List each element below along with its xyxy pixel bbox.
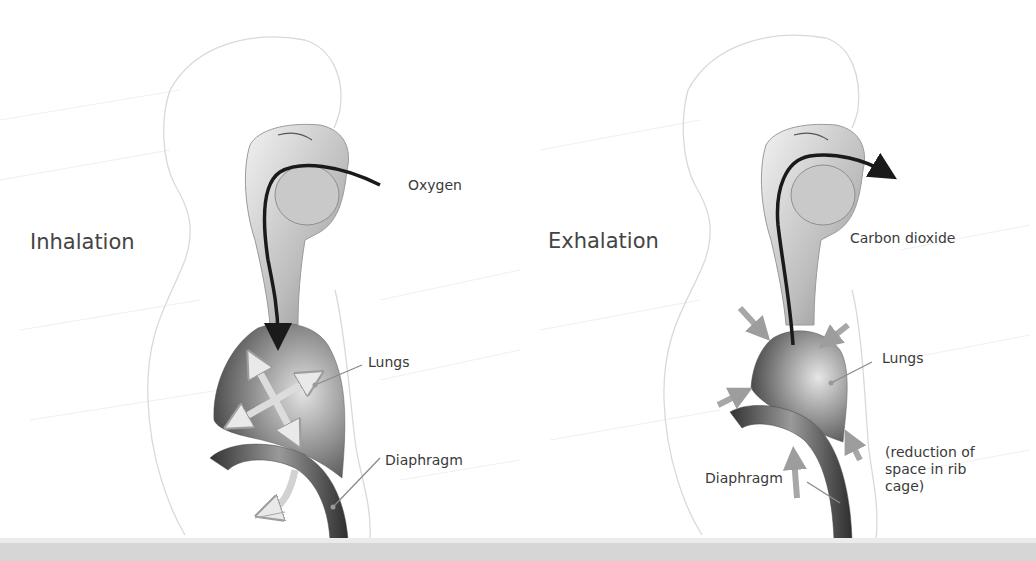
diagram-canvas [0, 0, 1036, 561]
oxygen-label: Oxygen [408, 177, 462, 193]
bottom-band [0, 543, 1036, 561]
airway-section [245, 124, 348, 325]
inhalation-diaphragm-label: Diaphragm [385, 452, 463, 468]
background-hatching [0, 90, 1030, 480]
carbon-dioxide-label: Carbon dioxide [850, 230, 955, 246]
exhalation-title: Exhalation [548, 229, 659, 253]
diaphragm-motion-arrow [268, 470, 295, 512]
exhalation-figure [664, 35, 885, 540]
inhalation-figure [148, 37, 380, 540]
respiration-diagram: Inhalation Oxygen Lungs Diaphragm Exhala… [0, 0, 1036, 561]
rib-cage-note: (reduction of space in rib cage) [885, 444, 975, 495]
exhalation-lungs-label: Lungs [882, 350, 923, 366]
exhalation-diaphragm-label: Diaphragm [705, 470, 783, 486]
inhalation-title: Inhalation [30, 230, 135, 254]
inhalation-lungs-label: Lungs [368, 354, 409, 370]
